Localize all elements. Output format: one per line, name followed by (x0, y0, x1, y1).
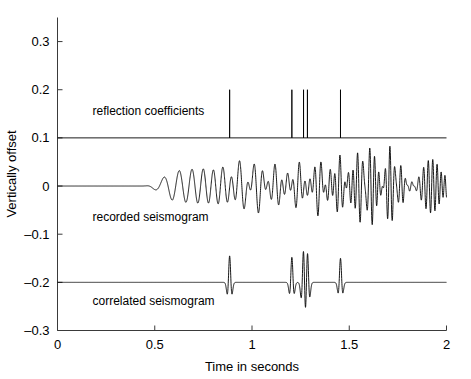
axis-frame (58, 18, 447, 331)
x-tick-label: 0 (54, 337, 61, 352)
y-tick-label: –0.2 (24, 275, 49, 290)
x-tick-marks (58, 326, 447, 331)
chart-canvas: 00.511.52 0.30.20.10–0.1–0.2–0.3 reflect… (0, 0, 471, 379)
y-tick-label: 0 (42, 179, 49, 194)
axis-group (58, 18, 447, 331)
seismic-figure: 00.511.52 0.30.20.10–0.1–0.2–0.3 reflect… (0, 0, 471, 379)
data-traces (58, 90, 447, 308)
y-tick-label: 0.3 (31, 34, 49, 49)
trace-label: recorded seismogram (93, 210, 209, 224)
x-tick-label: 1.5 (340, 337, 358, 352)
y-tick-label: 0.1 (31, 130, 49, 145)
y-tick-label: –0.3 (24, 323, 49, 338)
trace-label: correlated seismogram (93, 294, 215, 308)
y-axis-title: Vertically offset (4, 130, 19, 218)
trace-annotations: reflection coefficientsrecorded seismogr… (93, 104, 215, 308)
x-tick-label: 1 (248, 337, 255, 352)
y-tick-label: 0.2 (31, 82, 49, 97)
x-axis-title: Time in seconds (205, 359, 300, 374)
x-tick-labels: 00.511.52 (54, 337, 450, 352)
y-tick-labels: 0.30.20.10–0.1–0.2–0.3 (24, 34, 49, 338)
x-tick-label: 0.5 (146, 337, 164, 352)
x-tick-label: 2 (443, 337, 450, 352)
trace-label: reflection coefficients (93, 104, 205, 118)
y-tick-label: –0.1 (24, 227, 49, 242)
